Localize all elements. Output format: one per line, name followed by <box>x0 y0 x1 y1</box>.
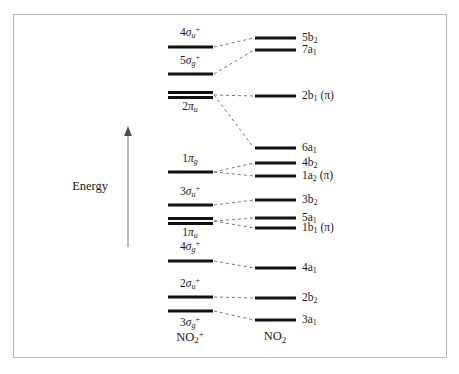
level-label-3b2: 3b2 <box>302 194 318 207</box>
correlation-line-1pg-4b2 <box>214 163 254 172</box>
level-label-5sg: 5σg+ <box>180 54 200 68</box>
level-label-4su: 4σu+ <box>180 26 200 40</box>
correlation-line-1pu-5a1 <box>214 218 254 221</box>
correlation-line-1pu-1b1 <box>214 221 254 228</box>
correlation-line-5sg-7a1 <box>214 50 254 74</box>
correlation-line-2pu-2b1 <box>214 95 254 96</box>
energy-axis-group <box>124 126 132 247</box>
correlation-lines-group <box>214 38 254 320</box>
level-label-3sg: 3σg+ <box>180 316 200 330</box>
level-label-4a1: 4a1 <box>302 262 317 275</box>
correlation-line-2su-2b2 <box>214 297 254 298</box>
level-label-1pg: 1πg <box>182 153 198 166</box>
species-label-no2-cation: NO2+ <box>176 329 204 345</box>
level-label-1a2: 1a2 (π) <box>302 170 333 183</box>
level-label-7a1: 7a1 <box>302 44 317 57</box>
species-label-no2: NO2 <box>264 329 287 344</box>
level-label-2su: 2σu+ <box>180 277 200 291</box>
level-label-6a1: 6a1 <box>302 142 317 155</box>
level-label-2pu: 2πu <box>182 101 198 114</box>
level-label-2b1: 2b1 (π) <box>302 90 334 103</box>
mo-diagram-figure: Energy 4σu+5σg+2πu1πg3σu+1πu4σg+2σu+3σg+… <box>0 0 459 374</box>
correlation-line-1pg-1a2 <box>214 172 254 176</box>
correlation-line-2pu-6a1 <box>214 95 254 148</box>
correlation-line-3sg-3a1 <box>214 311 254 320</box>
correlation-line-4sg-4a1 <box>214 261 254 268</box>
correlation-line-4su-5b2 <box>214 38 254 47</box>
level-label-1pu: 1πu <box>182 227 198 240</box>
level-label-3su: 3σu+ <box>180 185 200 199</box>
mo-diagram-canvas <box>0 0 459 374</box>
energy-axis-label: Energy <box>72 179 108 194</box>
level-label-4sg: 4σg+ <box>180 240 200 254</box>
level-label-3a1: 3a1 <box>302 314 317 327</box>
level-label-2b2: 2b2 <box>302 292 318 305</box>
energy-axis-arrowhead <box>124 126 132 136</box>
level-label-1b1: 1b1 (π) <box>302 222 334 235</box>
correlation-line-3su-3b2 <box>214 200 254 205</box>
